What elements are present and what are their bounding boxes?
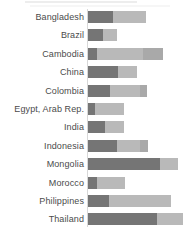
stacked-bar <box>88 158 178 170</box>
bar-segment-light-segment <box>109 195 171 207</box>
category-label: Egypt, Arab Rep. <box>0 103 84 115</box>
stacked-bar <box>88 103 124 115</box>
bar-segment-dark-segment <box>88 177 97 189</box>
category-label: Cambodia <box>0 48 84 60</box>
bar-segment-dark-segment <box>88 11 113 23</box>
bar-segment-light-segment <box>105 121 124 133</box>
category-label: China <box>0 66 84 78</box>
stacked-bar <box>88 213 183 225</box>
bar-segment-medium-segment <box>143 48 163 60</box>
chart-row: Indonesia <box>0 140 194 152</box>
bar-segment-light-segment <box>103 29 117 41</box>
stacked-bar <box>88 85 147 97</box>
category-label: Philippines <box>0 195 84 207</box>
bar-segment-dark-segment <box>88 121 105 133</box>
bar-segment-light-segment <box>117 140 140 152</box>
stacked-bar <box>88 195 171 207</box>
bar-segment-dark-segment <box>88 158 160 170</box>
stacked-bar <box>88 140 148 152</box>
chart-row: China <box>0 66 194 78</box>
chart-row: Philippines <box>0 195 194 207</box>
bar-segment-dark-segment <box>88 103 95 115</box>
chart-row: Cambodia <box>0 48 194 60</box>
stacked-bar <box>88 11 146 23</box>
stacked-bar <box>88 29 117 41</box>
bar-segment-dark-segment <box>88 213 157 225</box>
chart-row: Egypt, Arab Rep. <box>0 103 194 115</box>
category-label: Colombia <box>0 85 84 97</box>
category-label: Thailand <box>0 213 84 225</box>
category-label: Mongolia <box>0 158 84 170</box>
stacked-bar <box>88 177 125 189</box>
stacked-bar <box>88 66 137 78</box>
chart-row: Colombia <box>0 85 194 97</box>
category-label: Brazil <box>0 29 84 41</box>
bar-segment-dark-segment <box>88 48 97 60</box>
chart-row: Bangladesh <box>0 11 194 23</box>
bar-segment-light-segment <box>118 66 137 78</box>
stacked-bar <box>88 48 163 60</box>
bar-segment-medium-segment <box>140 85 147 97</box>
category-label: Indonesia <box>0 140 84 152</box>
category-label: Bangladesh <box>0 11 84 23</box>
bar-segment-dark-segment <box>88 195 109 207</box>
bar-segment-light-segment <box>97 48 144 60</box>
bar-segment-dark-segment <box>88 66 118 78</box>
bar-segment-dark-segment <box>88 140 117 152</box>
bar-segment-dark-segment <box>88 29 103 41</box>
chart-row: Thailand <box>0 213 194 225</box>
bar-segment-light-segment <box>110 85 140 97</box>
stacked-bar-chart: BangladeshBrazilCambodiaChinaColombiaEgy… <box>0 0 194 234</box>
bar-segment-medium-segment <box>140 140 149 152</box>
category-label: India <box>0 121 84 133</box>
bar-segment-light-segment <box>97 177 126 189</box>
stacked-bar <box>88 121 124 133</box>
chart-row: Mongolia <box>0 158 194 170</box>
category-label: Morocco <box>0 177 84 189</box>
bar-segment-light-segment <box>113 11 146 23</box>
bar-segment-light-segment <box>95 103 124 115</box>
chart-row: India <box>0 121 194 133</box>
bar-segment-dark-segment <box>88 85 110 97</box>
chart-row: Brazil <box>0 29 194 41</box>
bar-segment-light-segment <box>157 213 184 225</box>
chart-row: Morocco <box>0 177 194 189</box>
bar-segment-light-segment <box>160 158 178 170</box>
